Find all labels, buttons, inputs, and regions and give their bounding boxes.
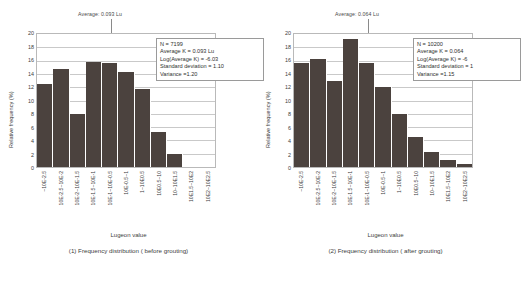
bar	[37, 84, 53, 167]
x-axis-tick-labels: ~10E-2.510E-2.5~10E-210E-2~10E-1.510E-1.…	[293, 170, 473, 222]
bar	[327, 81, 343, 167]
x-tick: 10E-1~10E-0.5	[107, 171, 113, 205]
y-tick: 6	[288, 125, 291, 131]
stat-standard-deviation: Standard deviation = 1	[417, 63, 517, 70]
stat-n: N = 7199	[160, 41, 260, 48]
average-annotation-line	[368, 19, 369, 34]
y-tick: 18	[28, 44, 34, 50]
bar	[440, 160, 456, 167]
x-tick: 1~10E0.5	[139, 171, 145, 193]
stat-standard-deviation: Standard deviation = 1.10	[160, 63, 260, 70]
x-tick: 10E2~10E2.5	[462, 171, 468, 202]
x-tick: 10E0.5~10	[156, 171, 162, 196]
y-tick: 20	[28, 30, 34, 36]
average-annotation-label: Average: 0.064 Lu	[335, 11, 379, 17]
bar	[294, 63, 310, 167]
x-tick-cell: 10E1.5~10E2	[440, 170, 456, 222]
y-tick: 4	[31, 138, 34, 144]
stat-log-average-k: Log(Average K) = -6	[417, 56, 517, 63]
stat-average-k: Average K = 0.093 Lu	[160, 48, 260, 55]
x-tick: 10E1.5~10E2	[188, 171, 194, 202]
bar	[359, 63, 375, 167]
x-tick: 10E-1.5~10E-1	[347, 171, 353, 205]
statistics-textbox: N = 7199 Average K = 0.093 Lu Log(Averag…	[156, 38, 264, 81]
y-tick: 2	[31, 152, 34, 158]
bar	[70, 114, 86, 167]
x-tick-cell: 1~10E0.5	[134, 170, 150, 222]
x-tick-cell: 10E0.5~10	[408, 170, 424, 222]
bar	[408, 137, 424, 167]
x-tick: 10E0.5~10	[413, 171, 419, 196]
x-tick: 10E2~10E2.5	[205, 171, 211, 202]
y-tick: 10	[28, 98, 34, 104]
x-tick-cell: 10E-0.5~1	[118, 170, 134, 222]
bar	[135, 89, 151, 167]
y-tick: 14	[28, 71, 34, 77]
y-axis-tick-labels: 20 18 16 14 12 10 8 6 4 2 0	[12, 33, 34, 168]
y-tick: 16	[28, 57, 34, 63]
x-tick-cell: 10E0.5~10	[151, 170, 167, 222]
bar	[424, 152, 440, 167]
x-tick: 10E-2.5~10E-2	[58, 171, 64, 205]
statistics-textbox: N = 10200 Average K = 0.064 Log(Average …	[413, 38, 521, 81]
bar	[102, 63, 118, 167]
y-tick: 18	[285, 44, 291, 50]
stat-average-k: Average K = 0.064	[417, 48, 517, 55]
stat-n: N = 10200	[417, 41, 517, 48]
y-axis-tick-labels: 20 18 16 14 12 10 8 6 4 2 0	[269, 33, 291, 168]
x-tick: 10E-0.5~1	[123, 171, 129, 195]
figure-caption: (2) Frequency distribution ( after grout…	[257, 247, 514, 254]
bar	[457, 164, 472, 167]
y-tick: 12	[28, 84, 34, 90]
x-tick-cell: 10~10E1.5	[424, 170, 440, 222]
bar	[151, 132, 167, 167]
bar	[86, 62, 102, 167]
bar	[310, 59, 326, 167]
stat-variance: Variance =1.20	[160, 71, 260, 78]
x-tick: 10E-2~10E-1.5	[74, 171, 80, 205]
y-tick: 8	[31, 111, 34, 117]
y-tick: 0	[288, 165, 291, 171]
y-tick: 16	[285, 57, 291, 63]
x-tick-cell: 10~10E1.5	[167, 170, 183, 222]
x-tick: 10~10E1.5	[429, 171, 435, 196]
bar	[53, 69, 69, 167]
y-tick: 8	[288, 111, 291, 117]
x-tick: 10E-2.5~10E-2	[315, 171, 321, 205]
x-tick: 10E1.5~10E2	[445, 171, 451, 202]
x-tick: 10E-2~10E-1.5	[331, 171, 337, 205]
x-tick-cell: 10E2~10E2.5	[457, 170, 473, 222]
x-tick-cell: 10E-2~10E-1.5	[69, 170, 85, 222]
x-tick: 10~10E1.5	[172, 171, 178, 196]
y-tick: 2	[288, 152, 291, 158]
average-annotation-line	[111, 19, 112, 34]
x-tick-cell: 10E-1.5~10E-1	[85, 170, 101, 222]
bar	[392, 114, 408, 167]
y-tick: 12	[285, 84, 291, 90]
x-tick-cell: ~10E-2.5	[36, 170, 52, 222]
x-tick-cell: 10E-2.5~10E-2	[309, 170, 325, 222]
x-axis-tick-labels: ~10E-2.510E-2.5~10E-210E-2~10E-1.510E-1.…	[36, 170, 216, 222]
x-tick-cell: 10E-1~10E-0.5	[358, 170, 374, 222]
y-tick: 10	[285, 98, 291, 104]
bar	[375, 87, 391, 167]
figure-caption: (1) Frequency distribution ( before grou…	[0, 247, 257, 254]
x-axis-title: Lugeon value	[0, 232, 257, 238]
x-tick-cell: 10E-1~10E-0.5	[101, 170, 117, 222]
x-tick-cell: 10E-2~10E-1.5	[326, 170, 342, 222]
y-tick: 6	[31, 125, 34, 131]
x-tick-cell: 10E-0.5~1	[375, 170, 391, 222]
bar	[167, 154, 183, 167]
x-tick: ~10E-2.5	[41, 171, 47, 192]
average-annotation-label: Average: 0.093 Lu	[78, 11, 122, 17]
x-tick-cell: 10E1.5~10E2	[183, 170, 199, 222]
x-tick-cell: 1~10E0.5	[391, 170, 407, 222]
bar	[118, 72, 134, 167]
y-tick: 0	[31, 165, 34, 171]
x-tick: 10E-0.5~1	[380, 171, 386, 195]
stat-variance: Variance =1.15	[417, 71, 517, 78]
chart-panel-after-grouting: Average: 0.064 Lu Relative frequency (%)…	[257, 0, 514, 283]
x-tick: ~10E-2.5	[298, 171, 304, 192]
y-tick: 20	[285, 30, 291, 36]
